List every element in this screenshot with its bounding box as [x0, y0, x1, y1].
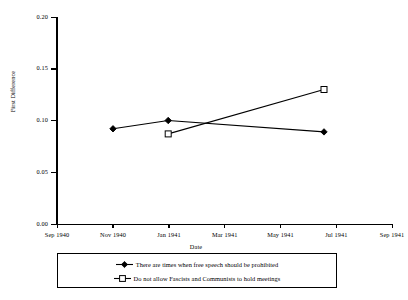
x-tick-4: [280, 224, 281, 228]
x-tick-1: [112, 224, 113, 228]
chart-figure: 0.00 0.05 0.10 0.15 0.20 Sep 1940 Nov 19…: [0, 0, 408, 300]
x-tick-label-5: Jul 1941: [306, 231, 366, 238]
x-tick-label-6: Sep 1941: [362, 231, 408, 238]
y-tick-4: [51, 17, 57, 18]
y-tick-label-3: 0.15: [0, 65, 48, 71]
x-tick-6: [392, 224, 393, 228]
series-line-free-speech: [113, 121, 324, 132]
data-point-marker: [321, 87, 327, 93]
x-tick-0: [57, 224, 58, 228]
x-tick-5: [336, 224, 337, 228]
legend-label: Do not allow Fascists and Communists to …: [134, 275, 281, 283]
x-tick-2: [168, 224, 169, 228]
legend-label: There are times when free speech should …: [136, 261, 278, 269]
y-axis-title: First Difference: [9, 37, 16, 147]
legend-entry-free-speech: There are times when free speech should …: [58, 258, 336, 271]
data-point-marker: [165, 131, 171, 137]
x-tick-label-0: Sep 1940: [27, 231, 87, 238]
y-tick-2: [51, 120, 57, 121]
x-tick-label-3: Mar 1941: [195, 231, 255, 238]
data-point-marker: [165, 117, 171, 123]
y-tick-label-2: 0.10: [0, 117, 48, 123]
data-point-marker: [321, 129, 327, 135]
y-tick-label-1: 0.05: [0, 169, 48, 175]
x-tick-label-4: May 1941: [251, 231, 311, 238]
legend-marker-open-square-icon: [114, 274, 131, 283]
x-tick-3: [224, 224, 225, 228]
chart-legend: There are times when free speech should …: [57, 253, 337, 288]
x-tick-label-1: Nov 1940: [83, 231, 143, 238]
y-tick-1: [51, 172, 57, 173]
y-tick-3: [51, 68, 57, 69]
legend-entry-fascists-communists: Do not allow Fascists and Communists to …: [58, 272, 336, 285]
series-markers-fascists-communists: [165, 87, 327, 137]
x-tick-label-2: Jan 1941: [139, 231, 199, 238]
data-point-marker: [110, 126, 116, 132]
x-axis-title: Date: [166, 243, 226, 250]
legend-marker-filled-diamond-icon: [116, 260, 133, 269]
series-markers-free-speech: [110, 117, 327, 135]
series-line-fascists-communists: [168, 90, 324, 134]
y-tick-label-4: 0.20: [0, 14, 48, 20]
y-tick-label-0: 0.00: [0, 221, 48, 227]
